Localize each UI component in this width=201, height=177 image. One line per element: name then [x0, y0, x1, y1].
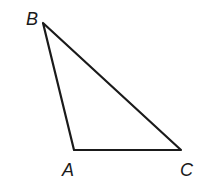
vertex-label-b: B [26, 9, 38, 29]
vertex-label-a: A [61, 160, 74, 177]
triangle-diagram: B A C [0, 0, 201, 177]
triangle-abc [43, 23, 181, 150]
vertex-label-c: C [180, 160, 194, 177]
